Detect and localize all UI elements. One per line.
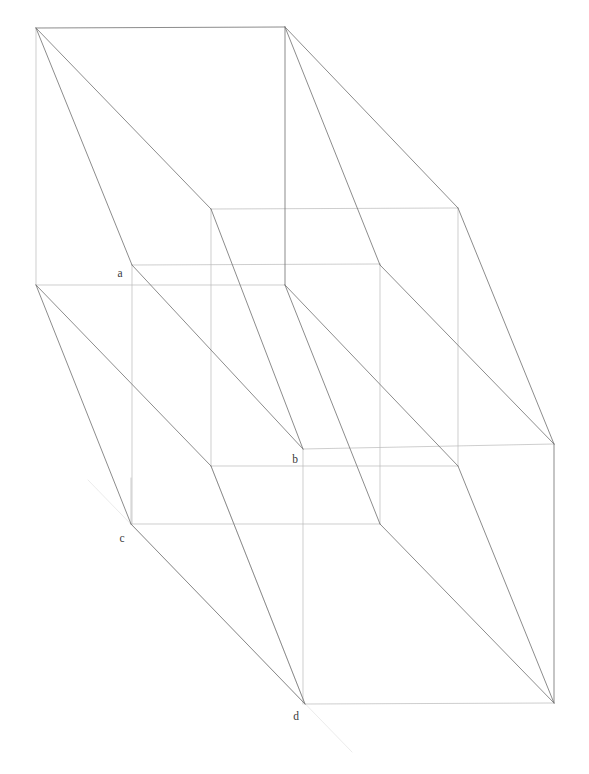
label-b: b: [292, 453, 298, 465]
label-d: d: [293, 710, 299, 722]
figure-root: abcd: [0, 0, 589, 774]
canvas-background: [0, 0, 589, 774]
label-a: a: [117, 267, 122, 279]
geometry-canvas: abcd: [0, 0, 589, 774]
label-c: c: [119, 532, 124, 544]
